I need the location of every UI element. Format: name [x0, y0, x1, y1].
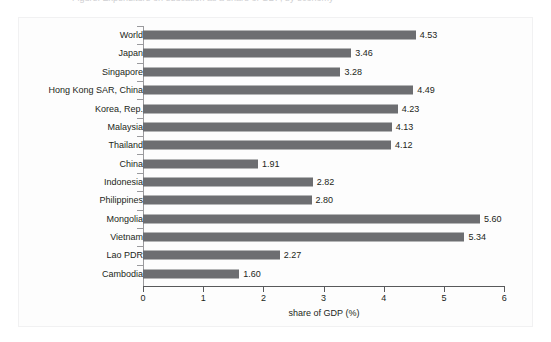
- bar-value-label: 4.12: [395, 140, 413, 150]
- x-tick-mark: [263, 287, 264, 292]
- x-tick-label: 4: [381, 293, 386, 304]
- category-label: China: [119, 159, 143, 169]
- x-tick-mark: [444, 287, 445, 292]
- bar[interactable]: [143, 141, 391, 150]
- bar[interactable]: [143, 49, 351, 58]
- plot-area: World4.53Japan3.46Singapore3.28Hong Kong…: [19, 18, 534, 328]
- x-tick-label: 3: [321, 293, 326, 304]
- bar-row: Indonesia2.82: [19, 173, 534, 191]
- bar-value-label: 4.13: [396, 122, 414, 132]
- bar-row: Japan3.46: [19, 44, 534, 62]
- y-tick-mark: [137, 210, 143, 211]
- category-label: Thailand: [108, 140, 143, 150]
- bar-value-label: 1.60: [243, 269, 261, 279]
- bar-value-label: 5.34: [468, 232, 486, 242]
- y-tick-mark: [137, 26, 143, 27]
- bar-value-label: 3.46: [355, 48, 373, 58]
- bar[interactable]: [143, 104, 398, 113]
- x-tick-label: 5: [441, 293, 446, 304]
- y-tick-mark: [137, 44, 143, 45]
- category-label: Singapore: [102, 67, 143, 77]
- x-tick-mark: [203, 287, 204, 292]
- bar-value-label: 2.27: [284, 250, 302, 260]
- bar[interactable]: [143, 177, 313, 186]
- category-label: Mongolia: [106, 214, 143, 224]
- category-label: Lao PDR: [106, 250, 143, 260]
- bar-row: Philippines2.80: [19, 191, 534, 209]
- category-label: Cambodia: [102, 269, 143, 279]
- y-tick-mark: [137, 246, 143, 247]
- caption-strip: Figure: Expenditure on education as a sh…: [0, 0, 551, 8]
- x-tick-label: 2: [261, 293, 266, 304]
- category-label: Hong Kong SAR, China: [48, 85, 143, 95]
- bar[interactable]: [143, 31, 416, 40]
- x-tick-mark: [504, 287, 505, 292]
- bar[interactable]: [143, 269, 239, 278]
- x-tick-label: 6: [502, 293, 507, 304]
- bar-value-label: 4.53: [420, 30, 438, 40]
- bar-value-label: 4.23: [402, 104, 420, 114]
- y-tick-mark: [137, 63, 143, 64]
- bar-row: Singapore3.28: [19, 63, 534, 81]
- bar-row: China1.91: [19, 154, 534, 172]
- bar-value-label: 5.60: [484, 214, 502, 224]
- bar-row: Vietnam5.34: [19, 228, 534, 246]
- bar[interactable]: [143, 86, 413, 95]
- bar[interactable]: [143, 122, 392, 131]
- y-tick-mark: [137, 191, 143, 192]
- x-tick-mark: [324, 287, 325, 292]
- bar-value-label: 3.28: [344, 67, 362, 77]
- y-tick-mark: [137, 118, 143, 119]
- bar-value-label: 4.49: [417, 85, 435, 95]
- bar-row: Hong Kong SAR, China4.49: [19, 81, 534, 99]
- x-axis-title: share of GDP (%): [289, 308, 360, 318]
- y-tick-mark: [137, 173, 143, 174]
- bar[interactable]: [143, 159, 258, 168]
- x-tick-label: 1: [201, 293, 206, 304]
- category-label: Japan: [118, 48, 143, 58]
- category-label: Vietnam: [110, 232, 143, 242]
- y-tick-mark: [137, 154, 143, 155]
- bar-value-label: 1.91: [262, 159, 280, 169]
- chart-panel: World4.53Japan3.46Singapore3.28Hong Kong…: [18, 17, 533, 327]
- bar-row: Malaysia4.13: [19, 118, 534, 136]
- bar[interactable]: [143, 196, 312, 205]
- bar[interactable]: [143, 67, 340, 76]
- bar-row: Mongolia5.60: [19, 210, 534, 228]
- y-tick-mark: [137, 81, 143, 82]
- bar-row: World4.53: [19, 26, 534, 44]
- y-tick-mark: [137, 99, 143, 100]
- bar[interactable]: [143, 232, 464, 241]
- y-tick-mark: [137, 265, 143, 266]
- bar[interactable]: [143, 214, 480, 223]
- bar[interactable]: [143, 251, 280, 260]
- category-label: Korea, Rep.: [95, 104, 143, 114]
- bar-row: Korea, Rep.4.23: [19, 99, 534, 117]
- category-label: Indonesia: [104, 177, 143, 187]
- bar-value-label: 2.82: [317, 177, 335, 187]
- x-tick-mark: [143, 287, 144, 292]
- bar-row: Lao PDR2.27: [19, 246, 534, 264]
- x-tick-mark: [384, 287, 385, 292]
- category-label: Malaysia: [107, 122, 143, 132]
- x-tick-label: 0: [140, 293, 145, 304]
- y-tick-mark: [137, 228, 143, 229]
- bar-row: Thailand4.12: [19, 136, 534, 154]
- bar-value-label: 2.80: [316, 195, 334, 205]
- figure-caption: Figure: Expenditure on education as a sh…: [72, 0, 334, 3]
- y-tick-mark: [137, 136, 143, 137]
- category-label: Philippines: [99, 195, 143, 205]
- category-label: World: [120, 30, 143, 40]
- bar-row: Cambodia1.60: [19, 265, 534, 283]
